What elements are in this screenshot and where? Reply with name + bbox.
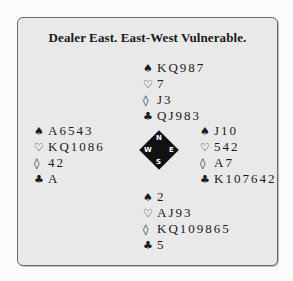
compass-rose: N W E S: [140, 131, 178, 169]
north-hand: ♠KQ987 ♡7 ◊J3 ♣QJ983: [143, 60, 205, 124]
heart-icon: ♡: [143, 77, 157, 93]
heart-icon: ♡: [143, 206, 157, 222]
club-icon: ♣: [34, 172, 48, 188]
south-hearts: ♡AJ93: [143, 205, 231, 221]
west-hand: ♠A6543 ♡KQ1086 ◊42 ♣A: [34, 123, 105, 187]
east-spades: ♠J10: [200, 123, 276, 139]
bridge-deal-panel: Dealer East. East-West Vulnerable. ♠KQ98…: [17, 17, 278, 266]
west-hearts: ♡KQ1086: [34, 139, 105, 155]
diamond-icon: ◊: [143, 93, 157, 109]
west-diamonds: ◊42: [34, 155, 105, 171]
spade-icon: ♠: [143, 61, 157, 77]
heart-icon: ♡: [34, 140, 48, 156]
east-diamonds: ◊A7: [200, 155, 276, 171]
north-diamonds: ◊J3: [143, 92, 205, 108]
east-hand: ♠J10 ♡542 ◊A7 ♣K107642: [200, 123, 276, 187]
compass-east: E: [169, 146, 174, 154]
east-clubs: ♣K107642: [200, 171, 276, 187]
compass-north: N: [156, 134, 162, 142]
diamond-icon: ◊: [200, 156, 214, 172]
club-icon: ♣: [143, 109, 157, 125]
club-icon: ♣: [200, 172, 214, 188]
east-hearts: ♡542: [200, 139, 276, 155]
compass-south: S: [156, 158, 161, 166]
north-hearts: ♡7: [143, 76, 205, 92]
spade-icon: ♠: [143, 190, 157, 206]
west-clubs: ♣A: [34, 171, 105, 187]
club-icon: ♣: [143, 238, 157, 254]
south-clubs: ♣5: [143, 237, 231, 253]
deal-title: Dealer East. East-West Vulnerable.: [18, 30, 277, 46]
south-diamonds: ◊KQ109865: [143, 221, 231, 237]
diamond-icon: ◊: [143, 222, 157, 238]
spade-icon: ♠: [200, 124, 214, 140]
spade-icon: ♠: [34, 124, 48, 140]
north-clubs: ♣QJ983: [143, 108, 205, 124]
heart-icon: ♡: [200, 140, 214, 156]
south-hand: ♠2 ♡AJ93 ◊KQ109865 ♣5: [143, 189, 231, 253]
compass-west: W: [144, 146, 152, 154]
west-spades: ♠A6543: [34, 123, 105, 139]
north-spades: ♠KQ987: [143, 60, 205, 76]
diamond-icon: ◊: [34, 156, 48, 172]
south-spades: ♠2: [143, 189, 231, 205]
